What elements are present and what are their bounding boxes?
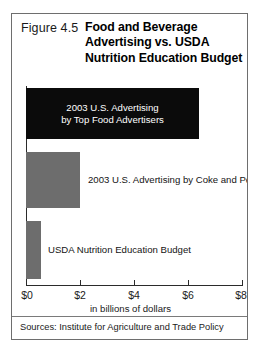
x-axis-label-2: $2 [74, 289, 86, 301]
x-axis-tick-8 [242, 280, 243, 286]
bar-usda-nutrition-education [26, 221, 41, 279]
figure-title: Food and Beverage Advertising vs. USDA N… [85, 20, 245, 66]
figure-header: Figure 4.5 Food and Beverage Advertising… [12, 14, 248, 82]
figure-title-line-2: Advertising vs. USDA [85, 35, 245, 50]
bar-label-line-2: by Top Food Advertisers [26, 114, 199, 126]
x-axis-label-0: $0 [21, 289, 33, 301]
footer-divider [12, 316, 248, 317]
x-axis-label-4: $4 [128, 289, 140, 301]
x-axis-caption: in billions of dollars [12, 303, 248, 314]
figure-number: Figure 4.5 [21, 21, 78, 35]
x-axis-tick-4 [134, 280, 135, 286]
figure-container: Figure 4.5 Food and Beverage Advertising… [11, 13, 248, 340]
x-axis-tick-0 [26, 280, 27, 286]
figure-title-line-1: Food and Beverage [85, 20, 245, 35]
bar-label-coke-and-pepsi: 2003 U.S. Advertising by Coke and Pepsi [88, 174, 248, 186]
figure-title-line-3: Nutrition Education Budget [85, 51, 245, 66]
bar-label-top-food-advertisers: 2003 U.S. Advertising by Top Food Advert… [26, 102, 199, 127]
bar-chart-plot: $0 $2 $4 $6 $8 2003 U.S. Advertising by … [12, 82, 248, 307]
source-note: Sources: Institute for Agriculture and T… [20, 322, 224, 332]
x-axis-tick-6 [188, 280, 189, 286]
x-axis-label-6: $6 [182, 289, 194, 301]
bar-coke-and-pepsi [26, 152, 80, 208]
x-axis-label-8: $8 [235, 289, 247, 301]
bar-label-line-1: 2003 U.S. Advertising [26, 102, 199, 114]
x-axis-tick-2 [80, 280, 81, 286]
bar-label-usda-nutrition-education: USDA Nutrition Education Budget [48, 244, 191, 256]
